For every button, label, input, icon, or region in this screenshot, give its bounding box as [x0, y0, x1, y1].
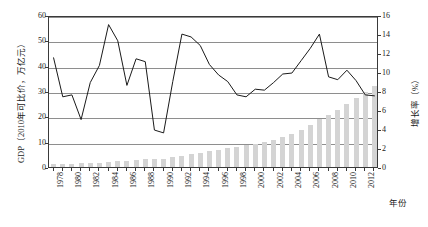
y-left-tick-label-50: 50	[24, 37, 46, 45]
x-tick-mark-1998	[236, 168, 237, 171]
plot-area	[48, 16, 378, 168]
x-tick-mark-2006	[309, 168, 310, 171]
x-tick-mark-1983	[98, 168, 99, 171]
x-tick-mark-1980	[71, 168, 72, 171]
x-tick-label-2002: 2002	[276, 172, 285, 188]
x-tick-label-1996: 1996	[221, 172, 230, 188]
x-axis-title: 年份	[389, 196, 407, 208]
x-tick-mark-2010	[346, 168, 347, 171]
x-tick-label-1992: 1992	[184, 172, 193, 188]
y-right-tick-label-8: 8	[382, 88, 404, 96]
y-axis-right-title: 增长率（%）	[408, 26, 420, 176]
y-right-tick-label-10: 10	[382, 69, 404, 77]
x-tick-label-1998: 1998	[239, 172, 248, 188]
x-tick-mark-2008	[328, 168, 329, 171]
y-right-tick-mark-4	[378, 130, 381, 131]
x-tick-mark-2012	[364, 168, 365, 171]
y-right-tick-label-16: 16	[382, 12, 404, 20]
x-tick-mark-2005	[300, 168, 301, 171]
x-tick-label-2008: 2008	[331, 172, 340, 188]
x-tick-mark-1995	[208, 168, 209, 171]
x-tick-label-1980: 1980	[74, 172, 83, 188]
y-right-tick-mark-10	[378, 73, 381, 74]
y-right-tick-label-6: 6	[382, 107, 404, 115]
y-left-tick-label-10: 10	[24, 139, 46, 147]
x-tick-label-1988: 1988	[147, 172, 156, 188]
x-tick-mark-1984	[108, 168, 109, 171]
chart-container: GDP（2010年可比价，万亿元） 增长率（%） 年份 605040302010…	[0, 0, 428, 227]
x-tick-mark-1985	[117, 168, 118, 171]
y-left-tick-label-40: 40	[24, 63, 46, 71]
x-tick-label-1986: 1986	[129, 172, 138, 188]
y-right-tick-mark-12	[378, 54, 381, 55]
x-tick-mark-1996	[218, 168, 219, 171]
x-tick-mark-1994	[199, 168, 200, 171]
x-tick-mark-2013	[373, 168, 374, 171]
x-tick-mark-1991	[172, 168, 173, 171]
x-tick-mark-1982	[89, 168, 90, 171]
growth-rate-polyline	[54, 25, 375, 133]
x-tick-label-2006: 2006	[312, 172, 321, 188]
y-right-tick-label-4: 4	[382, 126, 404, 134]
y-left-tick-label-20: 20	[24, 113, 46, 121]
x-tick-mark-1986	[126, 168, 127, 171]
y-left-tick-label-0: 0	[24, 164, 46, 172]
x-tick-mark-1997	[227, 168, 228, 171]
y-right-tick-mark-0	[378, 168, 381, 169]
y-left-tick-mark-0	[45, 168, 48, 169]
x-tick-mark-2004	[291, 168, 292, 171]
x-tick-mark-1988	[144, 168, 145, 171]
x-tick-mark-1999	[245, 168, 246, 171]
y-right-tick-mark-14	[378, 35, 381, 36]
x-tick-mark-1987	[135, 168, 136, 171]
y-axis-left-title: GDP（2010年可比价，万亿元）	[14, 26, 26, 176]
y-right-tick-mark-16	[378, 16, 381, 17]
x-tick-mark-2009	[337, 168, 338, 171]
y-right-tick-mark-8	[378, 92, 381, 93]
line-series-growth-rate	[49, 17, 378, 168]
y-right-tick-label-14: 14	[382, 31, 404, 39]
x-tick-label-1984: 1984	[111, 172, 120, 188]
y-right-tick-mark-2	[378, 149, 381, 150]
y-right-tick-label-0: 0	[382, 164, 404, 172]
x-tick-label-1978: 1978	[56, 172, 65, 188]
y-right-tick-label-2: 2	[382, 145, 404, 153]
x-tick-mark-2011	[355, 168, 356, 171]
x-tick-mark-1990	[163, 168, 164, 171]
x-tick-label-1982: 1982	[92, 172, 101, 188]
x-tick-mark-2002	[273, 168, 274, 171]
x-tick-mark-1979	[62, 168, 63, 171]
x-tick-mark-1981	[80, 168, 81, 171]
y-right-tick-mark-6	[378, 111, 381, 112]
x-tick-mark-2003	[282, 168, 283, 171]
y-left-tick-label-30: 30	[24, 88, 46, 96]
x-tick-label-2004: 2004	[294, 172, 303, 188]
x-tick-label-1994: 1994	[202, 172, 211, 188]
x-tick-label-1990: 1990	[166, 172, 175, 188]
y-left-tick-label-60: 60	[24, 12, 46, 20]
x-tick-label-2000: 2000	[257, 172, 266, 188]
x-tick-mark-1989	[153, 168, 154, 171]
y-right-tick-label-12: 12	[382, 50, 404, 58]
x-tick-mark-2000	[254, 168, 255, 171]
x-tick-mark-2007	[318, 168, 319, 171]
x-tick-mark-1993	[190, 168, 191, 171]
x-tick-label-2012: 2012	[367, 172, 376, 188]
x-tick-mark-2001	[263, 168, 264, 171]
x-tick-mark-1978	[53, 168, 54, 171]
x-tick-mark-1992	[181, 168, 182, 171]
x-tick-label-2010: 2010	[349, 172, 358, 188]
